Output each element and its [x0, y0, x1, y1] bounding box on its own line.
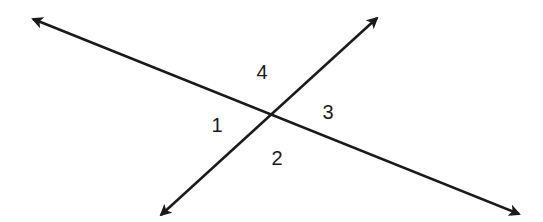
- intersecting-lines-diagram: [0, 0, 543, 222]
- angle-label-3: 3: [322, 102, 333, 122]
- line-b-double-arrow: [161, 18, 377, 215]
- angle-label-4: 4: [256, 62, 267, 82]
- line-a-double-arrow: [33, 19, 519, 214]
- angle-label-1: 1: [211, 115, 222, 135]
- angle-label-2: 2: [271, 148, 282, 168]
